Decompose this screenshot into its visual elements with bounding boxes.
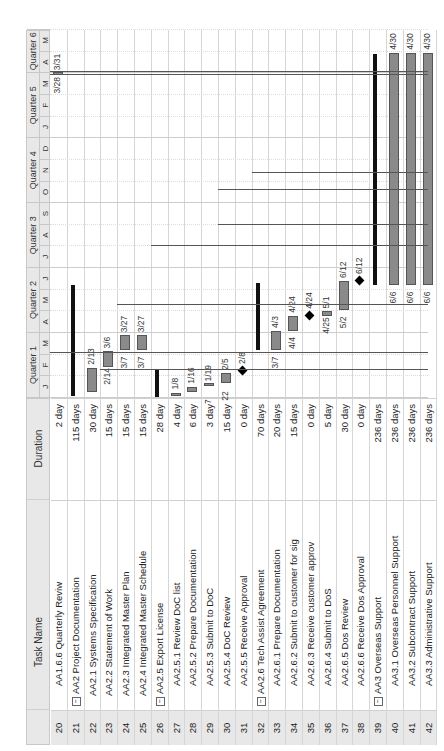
task-duration[interactable]: 15 days <box>118 398 134 500</box>
task-name[interactable]: AA2.6.6 Receive Dos Approval <box>353 500 369 710</box>
task-duration[interactable]: 30 day <box>85 398 101 500</box>
task-duration[interactable]: 15 day <box>219 398 235 500</box>
task-name[interactable]: AA2.6.4 Submit to DoS <box>320 500 336 710</box>
summary-bar[interactable] <box>256 283 260 350</box>
task-name-text: AA2.5.5 Receive Approval <box>238 576 249 686</box>
row-id: 29 <box>202 710 218 745</box>
task-name[interactable]: AA3.1 Overseas Personnel Support <box>387 500 403 710</box>
task-duration[interactable]: 236 days <box>404 398 420 500</box>
task-duration[interactable]: 2 day <box>51 398 67 500</box>
task-bar[interactable] <box>221 373 231 383</box>
row-id: 24 <box>118 710 134 745</box>
task-name[interactable]: AA1.6.6 Quarterly Reviw <box>51 500 67 710</box>
task-bar[interactable] <box>423 53 433 286</box>
task-name[interactable]: AA2.6.2 Submit to customer for sig <box>286 500 302 710</box>
task-duration[interactable]: 5 day <box>320 398 336 500</box>
task-bar[interactable] <box>204 383 214 386</box>
task-bar[interactable] <box>406 53 416 286</box>
task-name[interactable]: −AA2 Project Documentation <box>68 500 84 710</box>
duration-column-header[interactable]: Duration <box>27 397 49 499</box>
task-name-column-header[interactable]: Task Name <box>27 499 49 709</box>
task-name[interactable]: AA2.5.3 Submit to DoC <box>202 500 218 710</box>
task-name-text: AA3.2 Subcontract Support <box>406 571 417 686</box>
task-name-text: AA2.5.2 Prepare Documentation <box>187 549 198 686</box>
summary-bar[interactable] <box>373 54 377 286</box>
start-date-label: 2/14 <box>102 368 112 385</box>
task-duration[interactable]: 28 day <box>152 398 168 500</box>
task-bar[interactable] <box>271 331 281 350</box>
summary-bar[interactable] <box>155 370 159 397</box>
task-bar[interactable] <box>389 53 399 286</box>
task-name[interactable]: −AA2.6 Tech Assist Agreement <box>253 500 269 710</box>
task-duration[interactable]: 70 days <box>253 398 269 500</box>
collapse-toggle-icon[interactable]: − <box>72 697 81 706</box>
start-date-label: 6/6 <box>388 292 398 304</box>
task-bar[interactable] <box>103 351 113 366</box>
task-duration[interactable]: 115 days <box>68 398 84 500</box>
row-id: 25 <box>135 710 151 745</box>
task-duration[interactable]: 0 day <box>353 398 369 500</box>
task-duration[interactable]: 236 days <box>387 398 403 500</box>
task-name[interactable]: AA2.2 Statement of Work <box>101 500 117 710</box>
dependency-line <box>50 74 428 75</box>
task-name-text: AA2.6.4 Submit to DoS <box>322 588 333 686</box>
task-bar[interactable] <box>288 316 298 331</box>
id-column-header[interactable] <box>27 709 49 744</box>
task-duration[interactable]: 20 days <box>269 398 285 500</box>
row-id: 36 <box>320 710 336 745</box>
task-name[interactable]: −AA3 Overseas Support <box>370 500 386 710</box>
dependency-line <box>218 224 428 225</box>
task-bar[interactable] <box>339 281 349 310</box>
milestone-diamond[interactable] <box>305 310 315 320</box>
task-duration[interactable]: 30 day <box>337 398 353 500</box>
task-name[interactable]: AA2.3 Integrated Master Plan <box>118 500 134 710</box>
collapse-toggle-icon[interactable]: − <box>156 697 165 706</box>
task-bar[interactable] <box>137 335 147 350</box>
task-duration[interactable]: 0 day <box>236 398 252 500</box>
milestone-diamond[interactable] <box>237 366 247 376</box>
gridline <box>50 72 428 73</box>
task-name[interactable]: AA2.5.1 Review DoC list <box>169 500 185 710</box>
task-name[interactable]: AA2.5.2 Prepare Documentation <box>185 500 201 710</box>
task-name[interactable]: AA2.5.5 Receive Approval <box>236 500 252 710</box>
task-name[interactable]: AA2.4 Integrated Master Schedule <box>135 500 151 710</box>
task-duration[interactable]: 4 day <box>169 398 185 500</box>
collapse-toggle-icon[interactable]: − <box>374 697 383 706</box>
task-name[interactable]: AA2.6.5 Dos Review <box>337 500 353 710</box>
task-duration[interactable]: 15 days <box>286 398 302 500</box>
dependency-line <box>252 172 428 173</box>
task-duration[interactable]: 0 day <box>303 398 319 500</box>
task-name[interactable]: AA2.6.3 Receive customer approv <box>303 500 319 710</box>
task-name[interactable]: AA2.1 Systems Specification <box>85 500 101 710</box>
dependency-line <box>100 369 428 370</box>
task-duration[interactable]: 15 days <box>135 398 151 500</box>
start-date-label: 4/25 <box>321 317 331 334</box>
task-bar[interactable] <box>87 368 97 392</box>
table-header: Task Name Duration <box>26 398 50 745</box>
task-duration[interactable]: 6 day <box>185 398 201 500</box>
task-bar[interactable] <box>187 387 197 392</box>
task-duration[interactable]: 15 days <box>101 398 117 500</box>
start-date-label: 3/7 <box>136 357 146 369</box>
collapse-toggle-icon[interactable]: − <box>257 697 266 706</box>
task-bar[interactable] <box>120 335 130 350</box>
task-duration[interactable]: 236 days <box>370 398 386 500</box>
task-bar[interactable] <box>322 311 332 315</box>
row-id: 40 <box>387 710 403 745</box>
task-duration[interactable]: 3 day <box>202 398 218 500</box>
task-duration[interactable]: 236 days <box>421 398 437 500</box>
row-id: 38 <box>353 710 369 745</box>
gridline <box>50 116 428 117</box>
task-name[interactable]: AA3.2 Subcontract Support <box>404 500 420 710</box>
task-bar[interactable] <box>171 393 181 396</box>
task-name[interactable]: AA2.6.1 Prepare Documentation <box>269 500 285 710</box>
task-name[interactable]: AA3.3 Administrative Support <box>421 500 437 710</box>
milestone-diamond[interactable] <box>355 276 365 286</box>
summary-bar[interactable] <box>71 285 75 395</box>
task-name-text: AA2.6.1 Prepare Documentation <box>271 549 282 686</box>
task-name[interactable]: AA2.5.4 DoC Review <box>219 500 235 710</box>
quarter-label: Quarter 4 <box>27 137 39 202</box>
task-name-text: AA2.1 Systems Specification <box>87 575 98 696</box>
task-name[interactable]: −AA2.5 Export License <box>152 500 168 710</box>
row-id: 35 <box>303 710 319 745</box>
